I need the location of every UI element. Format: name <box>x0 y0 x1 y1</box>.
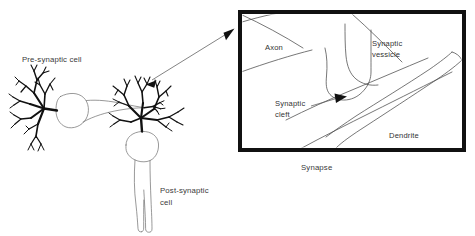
diagram-canvas: Axon Synaptic vessicle Synaptic cleft De… <box>0 0 475 236</box>
caption-synapse: Synapse <box>301 163 332 172</box>
detail-panel-border <box>240 12 464 150</box>
label-post-synaptic-cell-line2: cell <box>160 198 172 207</box>
post-synaptic-axon-right <box>144 161 152 233</box>
synapse-figure: Axon Synaptic vessicle Synaptic cleft De… <box>0 0 475 236</box>
label-synaptic-vessicle-line2: vessicle <box>372 50 400 59</box>
post-synaptic-axon-left <box>134 160 141 232</box>
pre-synaptic-soma <box>56 93 88 127</box>
post-synaptic-neuron <box>109 76 184 232</box>
label-axon: Axon <box>265 43 283 52</box>
label-synaptic-vessicle-line1: Synaptic <box>372 39 402 48</box>
synapse-detail-panel: Axon Synaptic vessicle Synaptic cleft De… <box>240 10 464 172</box>
label-post-synaptic-cell-line1: Post-synaptic <box>160 186 209 195</box>
label-synaptic-cleft-line2: cleft <box>275 110 290 119</box>
pre-synaptic-axon <box>87 100 145 107</box>
zoom-arrow <box>146 29 235 88</box>
pre-synaptic-dendrites <box>9 65 57 151</box>
post-synaptic-axon-fork <box>142 200 144 232</box>
label-dendrite: Dendrite <box>389 131 419 140</box>
arrow-head-right <box>224 29 235 41</box>
label-pre-synaptic-cell: Pre-synaptic cell <box>22 55 82 64</box>
label-synaptic-cleft-line1: Synaptic <box>275 99 305 108</box>
post-synaptic-soma <box>126 131 159 161</box>
arrow-head-left <box>146 80 157 88</box>
